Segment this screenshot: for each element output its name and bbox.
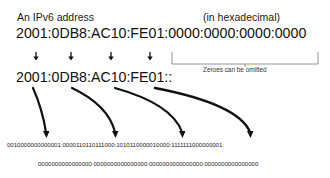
binary-line-2: 0000000000000000:0000000000000000:000000… xyxy=(38,161,258,167)
curved-arrow-icon xyxy=(33,88,46,132)
curved-arrow-icon xyxy=(72,88,115,132)
down-arrow-icon xyxy=(33,52,38,61)
compressed-address: 2001:0DB8:AC10:FE01:: xyxy=(16,69,172,85)
down-arrow-icon xyxy=(68,52,73,61)
down-arrow-icon xyxy=(147,52,152,61)
omission-bracket xyxy=(172,52,318,67)
curved-arrow-icon xyxy=(155,88,250,132)
down-arrow-icon xyxy=(108,52,113,61)
diagram-graphics xyxy=(0,0,330,178)
binary-line-1: 0010000000000001:0000110110111000:101011… xyxy=(7,142,224,148)
curved-arrow-icon xyxy=(115,88,182,132)
omission-note: Zeroes can be omitted xyxy=(203,66,267,73)
